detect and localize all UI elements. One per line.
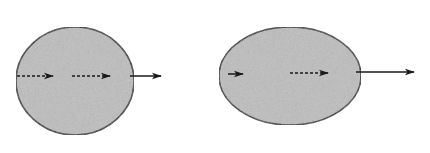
round-blob-shape xyxy=(16,27,134,135)
round-blob xyxy=(16,27,161,135)
oval-blob xyxy=(219,27,414,125)
shapes-layer xyxy=(16,27,414,135)
oval-blob-shape xyxy=(219,27,361,125)
diagram-svg xyxy=(0,0,430,153)
diagram-canvas xyxy=(0,0,430,153)
